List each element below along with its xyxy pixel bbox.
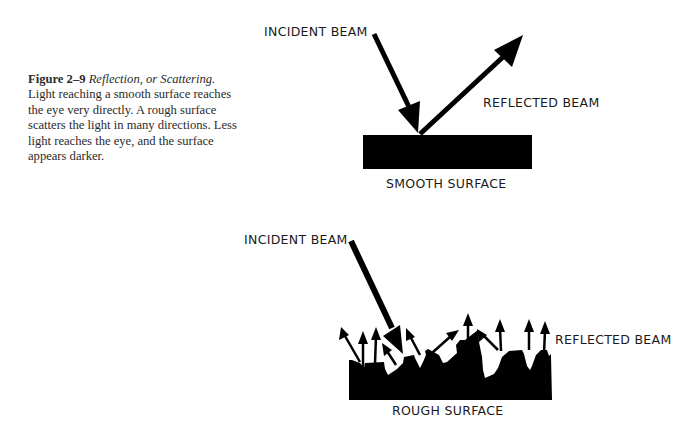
reflected-arrow [477, 329, 498, 350]
reflected-arrow [371, 327, 381, 364]
reflected-arrow [495, 319, 505, 351]
reflected-arrow [358, 331, 368, 368]
smooth-incident-arrow [374, 34, 420, 133]
reflected-arrow [524, 319, 534, 350]
reflected-arrow [432, 330, 459, 353]
rough-surface-shape [349, 330, 552, 400]
reflected-arrow [339, 327, 360, 362]
rough-surface-diagram [339, 241, 552, 400]
reflected-arrow [382, 343, 396, 365]
scattering-diagram [0, 0, 695, 439]
reflected-arrow [406, 328, 420, 355]
smooth-surface-diagram [363, 34, 532, 169]
smooth-surface-block [363, 135, 532, 169]
smooth-reflected-arrow [420, 35, 523, 134]
reflected-arrow [540, 321, 550, 354]
